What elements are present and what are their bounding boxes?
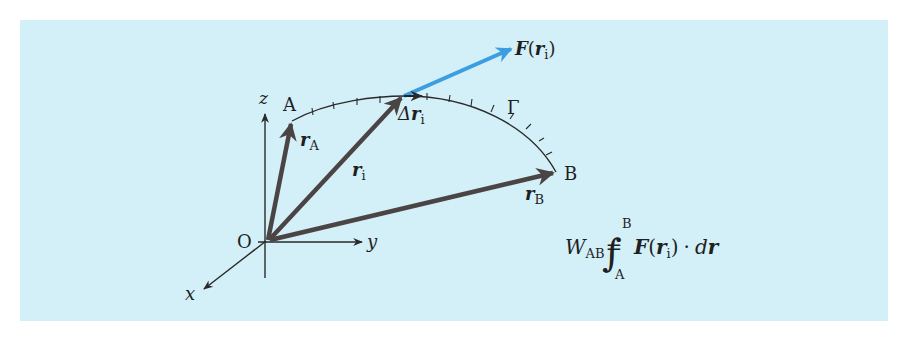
r-B-label: rB [525, 183, 544, 207]
point-B-label: B [564, 163, 577, 184]
curve-gamma-label: Γ [507, 97, 520, 118]
work-line-integral-diagram: z y x O A B Γ rA ri rB Δri F(ri) WAB= ∫ … [0, 0, 905, 338]
z-axis-label: z [258, 88, 269, 108]
vector-r-B [270, 173, 553, 240]
x-axis-label: x [185, 283, 195, 304]
point-A-label: A [282, 94, 297, 115]
vector-r-i [270, 98, 401, 239]
origin-label: O [237, 231, 252, 252]
r-i-label: ri [352, 159, 366, 183]
x-axis [204, 241, 266, 289]
force-vector [404, 49, 511, 96]
r-A-label: rA [300, 129, 319, 153]
work-formula: WAB= ∫ B A F(ri)·dr [565, 216, 720, 282]
force-label: F(ri) [514, 38, 556, 62]
svg-text:F(ri)·dr: F(ri)·dr [633, 235, 720, 261]
axes [204, 114, 362, 289]
delta-r-i-label: Δri [397, 103, 425, 127]
y-axis-label: y [366, 231, 378, 252]
integral-lower-limit: A [614, 267, 625, 282]
integral-upper-limit: B [622, 216, 632, 231]
